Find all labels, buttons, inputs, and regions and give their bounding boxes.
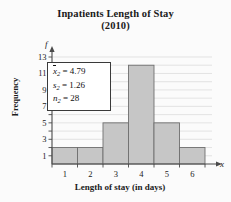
y-tick-label: 7 (42, 101, 46, 111)
y-tick-label: 3 (42, 134, 46, 144)
x-axis-label: Length of stay (in days) (30, 182, 210, 192)
bar (103, 123, 129, 164)
bar (180, 148, 206, 164)
x-tick-label: 4 (139, 169, 144, 179)
bar (52, 148, 78, 164)
x-tick-label: 3 (114, 169, 118, 179)
bar (154, 123, 180, 164)
y-tick-label: 11 (38, 68, 46, 78)
plot-area: 135791113 123456 (0, 0, 231, 202)
stat-symbol-sd: s (53, 80, 57, 90)
stat-symbol-n: n (53, 93, 58, 103)
stat-subscript-sd: 2 (57, 84, 60, 91)
y-tick-label: 13 (38, 52, 47, 62)
x-axis-arrowhead (216, 161, 222, 166)
y-tick-label: 5 (42, 118, 46, 128)
bar (129, 65, 155, 164)
y-tick-label: 9 (42, 85, 46, 95)
stat-row-mean: x2 = 4.79 (53, 66, 105, 80)
statistics-box: x2 = 4.79 s2 = 1.26 n2 = 28 (47, 62, 111, 111)
x-tick-label: 6 (190, 169, 194, 179)
stat-value-n: 28 (70, 93, 79, 103)
x-tick-label: 1 (63, 169, 67, 179)
stat-value-mean: 4.79 (70, 66, 86, 76)
y-axis-arrowhead (49, 46, 54, 52)
stat-row-sd: s2 = 1.26 (53, 80, 105, 94)
stat-symbol-mean: x (53, 66, 57, 76)
stat-equals-sd: = (62, 80, 67, 90)
stat-value-sd: 1.26 (69, 80, 85, 90)
stat-subscript-mean: 2 (57, 70, 60, 77)
y-tick-label: 1 (42, 151, 46, 161)
x-tick-label: 5 (165, 169, 169, 179)
x-tick-label: 2 (88, 169, 92, 179)
stat-row-n: n2 = 28 (53, 93, 105, 107)
stat-equals-n: = (63, 93, 68, 103)
bar (78, 148, 104, 164)
stat-equals-mean: = (63, 66, 68, 76)
histogram-figure: Inpatients Length of Stay (2010) Frequen… (0, 0, 231, 202)
x-ticks-group: 123456 (52, 164, 205, 179)
